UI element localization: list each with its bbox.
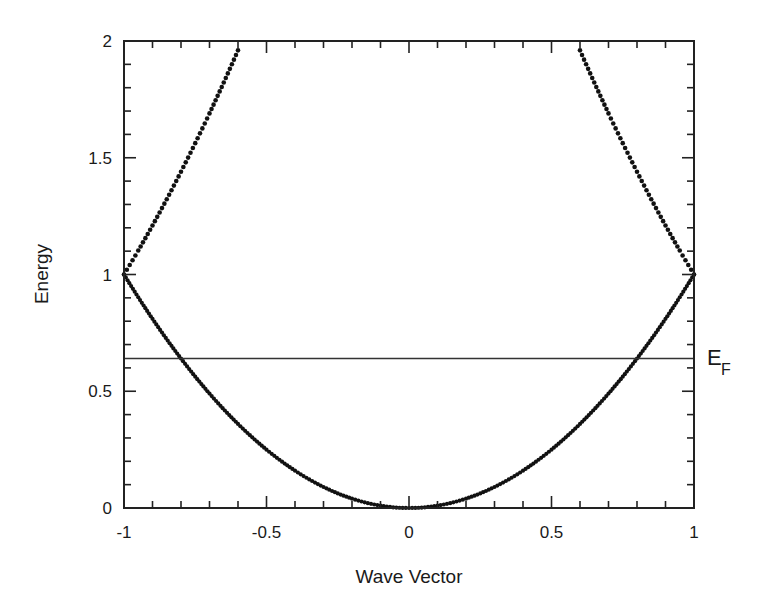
- data-series: [122, 48, 697, 510]
- series-0: [122, 272, 696, 510]
- y-tick-label: 1.5: [88, 149, 112, 168]
- y-tick-label: 0.5: [88, 382, 112, 401]
- x-tick-label: -1: [116, 523, 131, 542]
- band-structure-chart: -1-0.500.5100.511.52 Wave Vector Energy …: [0, 0, 763, 610]
- axis-ticks: [124, 41, 694, 508]
- series-1: [122, 48, 241, 277]
- plot-border: [124, 41, 694, 508]
- fermi-label-subscript: F: [721, 361, 731, 378]
- series-2: [578, 48, 697, 277]
- fermi-level-label: E F: [707, 345, 731, 378]
- x-tick-label: 0.5: [540, 523, 564, 542]
- y-tick-label: 2: [103, 32, 112, 51]
- x-tick-label: -0.5: [252, 523, 281, 542]
- x-axis-label: Wave Vector: [355, 566, 463, 587]
- y-tick-label: 1: [103, 266, 112, 285]
- fermi-label-main: E: [707, 345, 722, 370]
- y-axis-label: Energy: [31, 243, 52, 304]
- x-tick-label: 1: [689, 523, 698, 542]
- y-tick-label: 0: [103, 499, 112, 518]
- plot-frame: [124, 41, 694, 508]
- x-tick-label: 0: [404, 523, 413, 542]
